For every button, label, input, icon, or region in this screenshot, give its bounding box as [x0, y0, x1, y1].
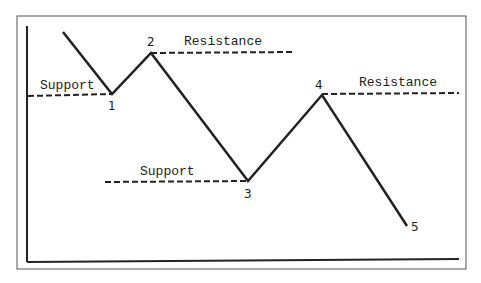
point-label-3: 3 [244, 187, 252, 201]
support-label-1: Support [40, 78, 95, 93]
support-label-3: Support [140, 164, 195, 179]
point-label-4: 4 [315, 78, 323, 92]
outer-frame [17, 16, 466, 269]
point-label-1: 1 [108, 99, 116, 113]
x-axis [27, 259, 459, 262]
support-line-3 [105, 181, 248, 182]
point-label-5: 5 [411, 220, 419, 234]
support-line-1 [28, 94, 112, 96]
resistance-line-2 [151, 52, 294, 53]
resistance-label-4: Resistance [359, 75, 437, 90]
point-label-2: 2 [147, 35, 155, 49]
price-path [63, 32, 407, 226]
resistance-line-4 [322, 93, 459, 94]
resistance-label-2: Resistance [184, 34, 262, 49]
support-resistance-diagram: Support Resistance Support Resistance 1 … [0, 0, 481, 283]
